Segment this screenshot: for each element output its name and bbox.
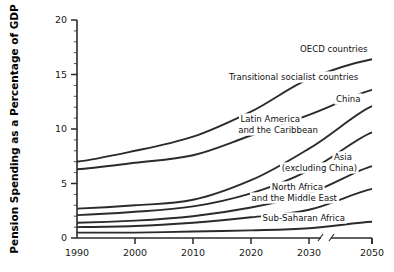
series-label-text: and the Caribbean — [238, 125, 318, 135]
x-tick-label-1990: 1990 — [65, 247, 89, 258]
pension-spending-line-chart: Pension Spending as a Percentage of GDP … — [0, 0, 394, 272]
y-axis-title: Pension Spending as a Percentage of GDP — [8, 4, 20, 254]
series-label-text: OECD countries — [300, 44, 368, 54]
y-tick-label-0: 0 — [61, 232, 67, 243]
series-label-text: Sub-Saharan Africa — [263, 213, 345, 223]
y-tick-label-10: 10 — [55, 123, 67, 134]
series-label-text: North Africa — [272, 182, 323, 192]
series-label-text: Latin America — [241, 114, 300, 124]
series-label-text: and the Middle East — [252, 193, 338, 203]
chart-figure: Pension Spending as a Percentage of GDP … — [0, 0, 394, 272]
series-label-text: Transitional socialist countries — [228, 72, 359, 82]
x-tick-label-2000: 2000 — [123, 247, 147, 258]
x-tick-label-2050: 2050 — [360, 247, 384, 258]
series-label-text: Asia — [334, 152, 352, 162]
y-tick-label-20: 20 — [55, 14, 67, 25]
y-tick-label-15: 15 — [55, 69, 67, 80]
x-tick-label-2030: 2030 — [297, 247, 321, 258]
series-label-text: (excluding China) — [282, 163, 357, 173]
y-tick-label-5: 5 — [61, 178, 67, 189]
x-tick-label-2010: 2010 — [181, 247, 205, 258]
series-label-text: China — [336, 94, 361, 104]
x-tick-label-2020: 2020 — [239, 247, 263, 258]
